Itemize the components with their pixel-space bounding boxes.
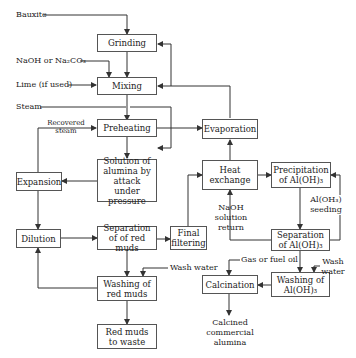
washing-red-muds-box: Washing of red muds bbox=[97, 276, 157, 301]
calcination-box: Calcination bbox=[202, 275, 258, 294]
dilution-box: Dilution bbox=[16, 229, 61, 248]
product-label: Calcined commercial alumina bbox=[190, 318, 270, 348]
separation-aloh-box: Separation of Al(OH)₃ bbox=[271, 229, 330, 251]
expansion-box: Expansion bbox=[16, 172, 62, 191]
wash-water-1-label: Wash water bbox=[170, 263, 218, 273]
mixing-box: Mixing bbox=[97, 77, 157, 95]
evaporation-box: Evaporation bbox=[202, 119, 258, 139]
naoh-return-label: NaOH solution return bbox=[202, 203, 260, 233]
bauxite-label: Bauxite bbox=[16, 10, 47, 20]
separation-red-muds-box: Separation of of red muds bbox=[97, 226, 157, 250]
steam-label: Steam bbox=[16, 102, 42, 112]
lime-label: Lime (if used) bbox=[16, 80, 72, 90]
naoh-label: NaOH or Na₂CO₃ bbox=[16, 56, 86, 66]
recovered-steam-label: Recovered steam bbox=[46, 119, 86, 135]
preheating-box: Preheating bbox=[97, 119, 157, 137]
seeding-label: Al(OH₃) seeding bbox=[310, 195, 342, 215]
heat-exchange-box: Heat exchange bbox=[202, 160, 258, 190]
solution-box: Solution of alumina by attack under pres… bbox=[97, 159, 157, 202]
process-flow-diagram: Grinding Mixing Preheating Solution of a… bbox=[0, 0, 356, 358]
wash-water-2-label: Wash water bbox=[321, 257, 345, 277]
grinding-box: Grinding bbox=[97, 34, 157, 52]
red-muds-waste-box: Red muds to waste bbox=[97, 324, 157, 349]
precipitation-box: Precipitation of Al(OH)₃ bbox=[271, 162, 331, 188]
gas-fuel-label: Gas or fuel oil bbox=[241, 255, 298, 265]
